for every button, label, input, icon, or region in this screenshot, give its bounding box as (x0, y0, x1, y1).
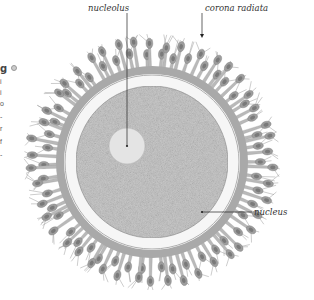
cytoplasm (76, 86, 228, 238)
corona-cell-nucleus (258, 160, 263, 164)
nucleus-leader-dot (201, 211, 203, 213)
nucleus-label: nucleus (254, 207, 288, 217)
nucleolus-label: nucleolus (88, 3, 130, 13)
arrow-head-icon (200, 34, 204, 38)
oocyte-illustration: nucleolus corona radiata nucleus (0, 0, 314, 300)
corona-radiata-label: corona radiata (205, 3, 268, 13)
nucleolus-leader-dot (126, 145, 128, 147)
